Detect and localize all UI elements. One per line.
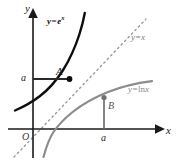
y-tick-label-a: a bbox=[21, 73, 26, 83]
origin-label: O bbox=[22, 132, 29, 142]
y-axis-label: y bbox=[25, 3, 30, 14]
ln-label-arg: x bbox=[145, 84, 149, 94]
x-axis-arrowhead bbox=[155, 124, 165, 134]
identity-line-label: y=x bbox=[131, 33, 145, 42]
x-axis-label: x bbox=[166, 125, 171, 136]
x-axis bbox=[8, 124, 165, 134]
exp-label-exponent: x bbox=[61, 14, 64, 21]
point-b-marker bbox=[101, 95, 106, 100]
ln-curve-label: y=lnx bbox=[128, 85, 149, 94]
identity-label-rhs: x bbox=[141, 32, 145, 42]
point-b-label: B bbox=[108, 101, 114, 111]
point-a-label: A bbox=[56, 66, 63, 77]
exp-curve-label: y=ex bbox=[47, 15, 64, 26]
x-tick-label-a: a bbox=[101, 133, 106, 143]
math-figure: y x O a a A B y=ex y=x y=lnx bbox=[0, 0, 176, 161]
point-a-marker bbox=[67, 76, 73, 82]
y-axis bbox=[28, 8, 38, 158]
exp-curve bbox=[15, 13, 85, 111]
